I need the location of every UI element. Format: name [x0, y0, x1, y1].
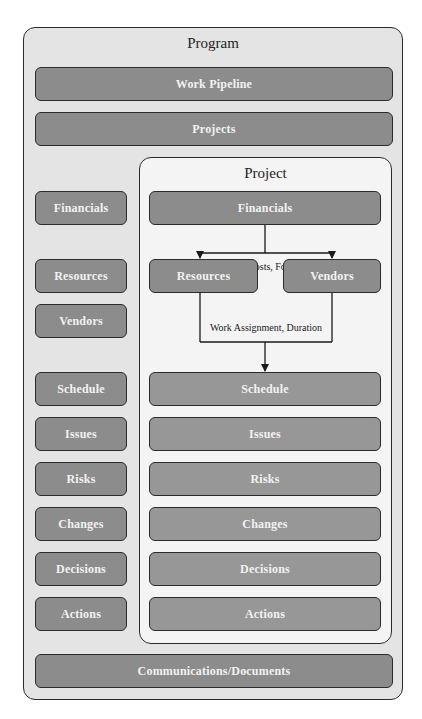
- arrow-to-resources-icon: [196, 251, 204, 259]
- project-issues-box: Issues: [149, 417, 381, 451]
- project-changes-box: Changes: [149, 507, 381, 541]
- arrow-to-schedule-icon: [261, 364, 269, 372]
- communications-documents-box: Communications/Documents: [35, 654, 393, 688]
- arrow-to-vendors-icon: [328, 251, 336, 259]
- project-decisions-box: Decisions: [149, 552, 381, 586]
- project-actions-box: Actions: [149, 597, 381, 631]
- flow-label-work-assignment: Work Assignment, Duration: [202, 322, 330, 333]
- project-risks-box: Risks: [149, 462, 381, 496]
- project-resources-box: Resources: [149, 259, 258, 293]
- project-schedule-box: Schedule: [149, 372, 381, 406]
- project-vendors-box: Vendors: [283, 259, 381, 293]
